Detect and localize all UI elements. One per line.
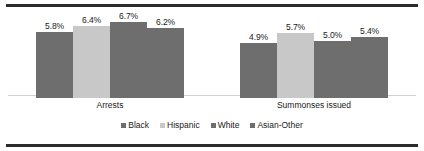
legend-label: White: [218, 120, 240, 130]
category-label-summonses: Summonses issued: [212, 100, 416, 114]
bar-slot: 6.2%: [147, 12, 184, 98]
category-labels: Arrests Summonses issued: [8, 100, 416, 114]
bar-slot: 6.4%: [73, 12, 110, 98]
legend-swatch-icon: [250, 123, 255, 128]
category-label-arrests: Arrests: [8, 100, 212, 114]
legend-label: Hispanic: [167, 120, 200, 130]
plot-area: 5.8% 6.4% 6.7% 6.2%: [8, 12, 416, 98]
bar-slot: 6.7%: [110, 12, 147, 98]
bar-slot: 5.0%: [314, 12, 351, 98]
legend-swatch-icon: [121, 123, 126, 128]
bar-slot: 4.9%: [240, 12, 277, 98]
bar-value-label: 6.2%: [147, 17, 184, 27]
bar-value-label: 5.4%: [351, 26, 388, 36]
legend-item-asian-other[interactable]: Asian-Other: [250, 120, 302, 130]
legend-item-hispanic[interactable]: Hispanic: [160, 120, 200, 130]
legend-label: Black: [128, 120, 149, 130]
bar-black-arrests[interactable]: [36, 32, 73, 98]
bar-asian-other-arrests[interactable]: [147, 28, 184, 98]
legend-swatch-icon: [211, 123, 216, 128]
bar-value-label: 4.9%: [240, 32, 277, 42]
bar-asian-other-summonses[interactable]: [351, 37, 388, 98]
bar-value-label: 5.7%: [277, 22, 314, 32]
legend-item-black[interactable]: Black: [121, 120, 149, 130]
bar-value-label: 5.8%: [36, 21, 73, 31]
bar-hispanic-arrests[interactable]: [73, 26, 110, 98]
bar-value-label: 6.4%: [73, 15, 110, 25]
top-rule: [6, 4, 418, 7]
bar-value-label: 5.0%: [314, 30, 351, 40]
bar-hispanic-summonses[interactable]: [277, 33, 314, 98]
legend-swatch-icon: [160, 123, 165, 128]
bar-slot: 5.7%: [277, 12, 314, 98]
bar-black-summonses[interactable]: [240, 43, 277, 98]
legend-item-white[interactable]: White: [211, 120, 240, 130]
bar-chart-figure: 5.8% 6.4% 6.7% 6.2%: [0, 0, 424, 151]
bar-value-label: 6.7%: [110, 11, 147, 21]
bottom-rule: [6, 144, 418, 147]
legend-label: Asian-Other: [257, 120, 302, 130]
chart-legend: Black Hispanic White Asian-Other: [0, 120, 424, 130]
bar-group-summonses: 4.9% 5.7% 5.0% 5.4%: [212, 12, 416, 98]
bar-group-arrests: 5.8% 6.4% 6.7% 6.2%: [8, 12, 212, 98]
bar-slot: 5.4%: [351, 12, 388, 98]
bar-white-arrests[interactable]: [110, 22, 147, 98]
bar-groups: 5.8% 6.4% 6.7% 6.2%: [8, 12, 416, 98]
bar-white-summonses[interactable]: [314, 41, 351, 98]
bar-slot: 5.8%: [36, 12, 73, 98]
